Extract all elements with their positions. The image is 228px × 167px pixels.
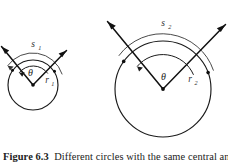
figure-caption-label: Figure 6.3 — [3, 151, 49, 162]
large-circle-group: s 2 θ r 2 — [108, 18, 226, 137]
large-circle-arc-label: s 2 — [161, 18, 171, 30]
small-circle-group: s 1 θ r 1 — [2, 39, 67, 110]
large-circle-edge-dot-left — [122, 60, 126, 64]
small-circle-arc-label: s 1 — [31, 39, 41, 51]
small-circle-center-dot — [31, 83, 35, 87]
large-angle-arrowhead — [137, 67, 143, 72]
figure-caption: Figure 6.3 Different circles with the sa… — [3, 150, 228, 164]
label-s1-subscript: 1 — [38, 44, 41, 51]
small-circle-edge-dot-right — [53, 70, 56, 73]
label-r2-subscript: 2 — [194, 79, 197, 86]
label-s2-base: s — [161, 18, 165, 28]
figure-page: s 1 θ r 1 — [0, 0, 228, 167]
label-r1-base: r — [45, 75, 49, 85]
large-circle-center-dot — [161, 87, 165, 91]
label-s1-base: s — [31, 39, 35, 49]
small-circle-edge-dot-left — [11, 69, 14, 72]
small-ray-left-arrowhead — [2, 47, 10, 54]
small-circle-radius-label: r 1 — [45, 75, 54, 87]
large-circle-radius-label: r 2 — [188, 74, 197, 86]
label-r1-subscript: 1 — [51, 80, 54, 87]
figure-diagram: s 1 θ r 1 — [0, 0, 228, 167]
figure-caption-body: Different circles with the same central … — [54, 151, 228, 162]
label-theta-small: θ — [28, 67, 33, 78]
label-r2-base: r — [188, 74, 192, 84]
small-ray-right-arrowhead — [59, 51, 67, 58]
large-circle-edge-dot-right — [206, 71, 210, 75]
label-theta-large: θ — [161, 71, 166, 82]
large-ray-right-arrowhead — [217, 25, 226, 33]
label-s2-subscript: 2 — [168, 23, 171, 30]
large-ray-left-arrowhead — [108, 22, 116, 30]
